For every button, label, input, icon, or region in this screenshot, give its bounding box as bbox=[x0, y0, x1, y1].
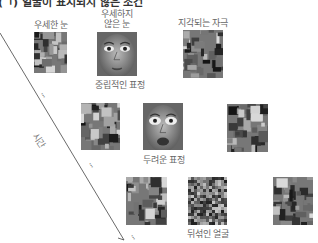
scrambled-image-row3-2 bbox=[188, 177, 227, 225]
mosaic-image-row3-1 bbox=[126, 177, 167, 225]
label-dominant-eye: 우세한 눈 bbox=[30, 20, 72, 30]
caption-neutral: 중립적인 표정 bbox=[90, 80, 150, 90]
mosaic-image-row2-3 bbox=[227, 104, 268, 152]
label-perceived-stimulus: 지각되는 자극 bbox=[172, 18, 234, 28]
face-neutral-image-row1-2 bbox=[97, 32, 137, 76]
caption-scrambled: 뒤섞인 얼굴 bbox=[180, 229, 236, 239]
caption-fearful: 두려운 표정 bbox=[136, 155, 192, 165]
mosaic-image-row3-3 bbox=[273, 177, 313, 225]
mosaic-image-row1-1 bbox=[34, 32, 67, 73]
mosaic-image-row1-3 bbox=[183, 30, 223, 78]
label-nondominant-eye: 우세하지 않은 눈 bbox=[92, 9, 142, 29]
face-fearful-image-row2-2 bbox=[143, 103, 183, 150]
mosaic-image-row2-1 bbox=[81, 103, 120, 150]
